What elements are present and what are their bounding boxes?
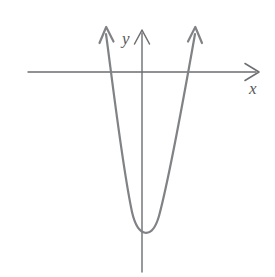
parabola-figure: y x <box>0 0 275 277</box>
y-axis-label: y <box>122 30 130 47</box>
graph-canvas <box>0 0 275 277</box>
parabola-curve <box>106 34 195 233</box>
x-axis-label: x <box>249 80 257 97</box>
